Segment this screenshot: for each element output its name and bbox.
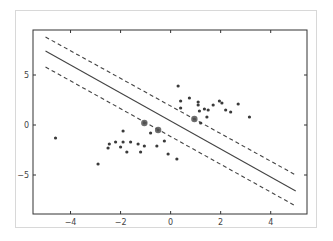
support-vector-point [191, 116, 197, 122]
y-tick-label: −5 [17, 171, 29, 180]
data-point [237, 102, 240, 105]
data-point [248, 115, 251, 118]
y-tick-label: 0 [24, 121, 29, 130]
data-point [129, 140, 132, 143]
data-point [205, 115, 208, 118]
support-vector-point [141, 120, 147, 126]
data-point [125, 150, 128, 153]
data-point [143, 144, 146, 147]
decision-boundary [46, 51, 296, 191]
support-vector-point [155, 127, 161, 133]
data-point [207, 108, 210, 111]
data-point [108, 142, 111, 145]
data-point [175, 157, 178, 160]
decision-lines [46, 37, 296, 206]
data-point [114, 140, 117, 143]
data-point [197, 100, 200, 103]
x-tick-label: 4 [268, 218, 273, 227]
data-point [179, 106, 182, 109]
margin-upper [46, 37, 296, 175]
data-point [139, 150, 142, 153]
data-point [224, 108, 227, 111]
x-tick-label: 0 [168, 218, 173, 227]
data-point [212, 103, 215, 106]
data-point [167, 152, 170, 155]
data-point [121, 140, 124, 143]
margin-lower [46, 67, 296, 206]
data-point [197, 103, 200, 106]
data-point [198, 109, 201, 112]
data-point [54, 136, 57, 139]
data-point [179, 99, 182, 102]
data-point [199, 121, 202, 124]
data-point [220, 101, 223, 104]
svm-scatter-plot: −4−202450−5 [0, 0, 333, 241]
data-point [163, 139, 166, 142]
plot-axes [33, 30, 307, 214]
data-point [119, 145, 122, 148]
x-tick-label: −2 [115, 218, 127, 227]
data-point [136, 142, 139, 145]
x-tick-label: −4 [65, 218, 77, 227]
data-point [218, 99, 221, 102]
data-point [203, 107, 206, 110]
y-tick-label: 5 [24, 71, 29, 80]
data-point [155, 144, 158, 147]
data-point [106, 146, 109, 149]
x-tick-label: 2 [218, 218, 223, 227]
data-point [96, 162, 99, 165]
data-point [177, 84, 180, 87]
data-point [121, 129, 124, 132]
data-point [229, 110, 232, 113]
data-point [188, 96, 191, 99]
data-point [149, 131, 152, 134]
